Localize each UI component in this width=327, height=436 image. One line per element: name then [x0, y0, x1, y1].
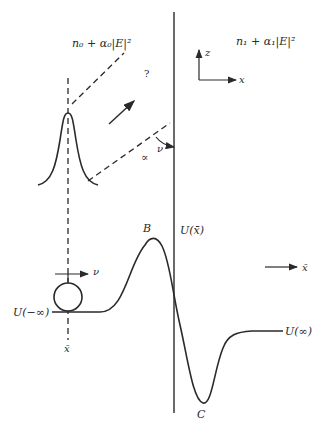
- trough-label-c: C: [197, 408, 206, 421]
- potential-curve: [52, 238, 283, 403]
- left-medium-label: n₀ + α₀|E|²: [72, 37, 131, 51]
- propagation-arrow-icon: [109, 101, 134, 124]
- particle-ball: [54, 283, 82, 311]
- left-asymptote-label: U(−∞): [13, 306, 49, 319]
- direction-arrow-label: x̄: [302, 262, 308, 273]
- velocity-label: ν: [93, 266, 99, 277]
- diagram-canvas: n₀ + α₀|E|² n₁ + α₁|E|² z x ? ν ∝ B U(x̄…: [0, 0, 327, 436]
- z-axis-label: z: [204, 47, 211, 58]
- potential-label: U(x̄): [180, 224, 204, 237]
- right-asymptote-label: U(∞): [285, 325, 312, 338]
- angle-alpha-label: ∝: [141, 151, 148, 164]
- x-axis-label: x: [239, 74, 245, 85]
- peak-label-b: B: [142, 222, 151, 235]
- upper-dashed-diagonal: [72, 53, 124, 104]
- unknown-marker: ?: [144, 68, 149, 79]
- angle-nu-label: ν: [157, 143, 163, 154]
- right-medium-label: n₁ + α₁|E|²: [236, 35, 295, 49]
- position-label: x̄: [64, 343, 70, 354]
